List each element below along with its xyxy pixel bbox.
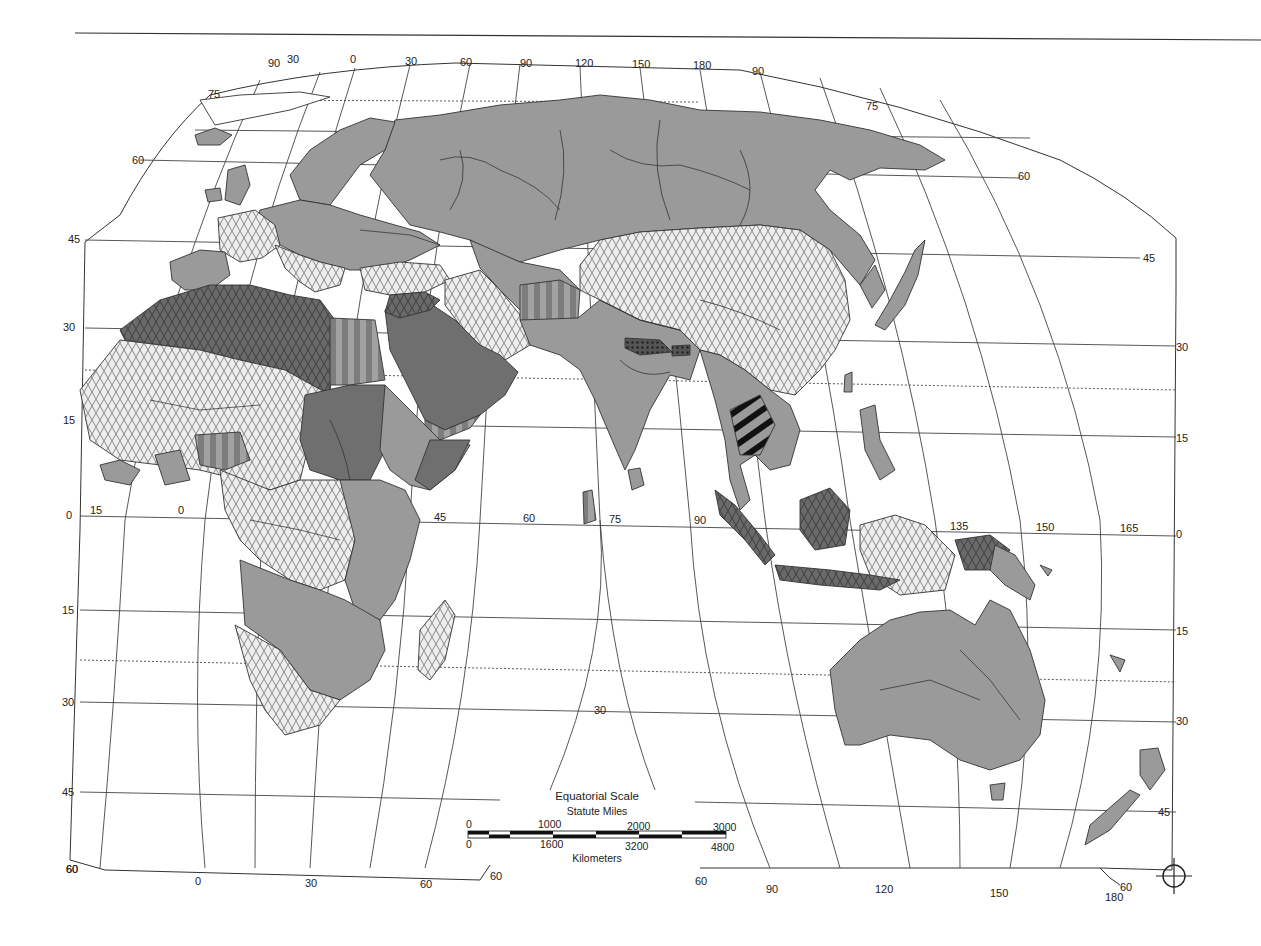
km-tick-3200: 3200 — [625, 840, 649, 852]
bottom-right-120: 120 — [875, 883, 893, 895]
lat-right-0: 0 — [1176, 528, 1182, 540]
top-label-4: 60 — [460, 56, 472, 68]
miles-tick-0: 0 — [466, 818, 472, 830]
top-label-0: 90 — [268, 57, 280, 69]
lat-left-45: 45 — [68, 233, 80, 245]
lat-right-30s: 30 — [1176, 715, 1188, 727]
bottom-left-0: 0 — [195, 875, 201, 887]
top-label-7: 150 — [632, 58, 650, 70]
lat-left-0: 0 — [66, 509, 72, 521]
eq-lon-75: 75 — [609, 513, 621, 525]
eq-lon-0: 0 — [178, 504, 184, 516]
lat-left-60: 60 — [132, 154, 144, 166]
eq-lon-90: 90 — [694, 514, 706, 526]
top-label-9: 90 — [752, 65, 764, 77]
lat-left-30s: 30 — [62, 696, 74, 708]
top-label-3: 30 — [405, 55, 417, 67]
miles-tick-2000: 2000 — [627, 820, 651, 832]
eq-lon-45: 45 — [434, 511, 446, 523]
top-rule — [75, 33, 1261, 40]
top-label-8: 180 — [693, 59, 711, 71]
bottom-right-90: 90 — [766, 883, 778, 895]
lat-right-15s: 15 — [1176, 625, 1188, 637]
lat-right-15: 15 — [1176, 432, 1188, 444]
km-tick-1600: 1600 — [540, 838, 564, 850]
lat-left-15s: 15 — [62, 604, 74, 616]
eq-lon-150: 150 — [1036, 521, 1054, 533]
scale-title: Equatorial Scale — [555, 790, 639, 802]
km-tick-0: 0 — [466, 838, 472, 850]
top-label-6: 120 — [575, 57, 593, 69]
km-tick-4800: 4800 — [711, 841, 735, 853]
bottom-left-30: 30 — [305, 877, 317, 889]
world-map: 90 30 0 30 60 90 120 150 180 90 75 60 45… — [0, 0, 1261, 946]
top-label-5: 90 — [520, 57, 532, 69]
bottom-right-150: 150 — [990, 887, 1008, 899]
top-label-1: 30 — [287, 53, 299, 65]
bottom-right-60: 60 — [695, 875, 707, 887]
top-label-2: 0 — [350, 53, 356, 65]
bottom-left-60b: 60 — [420, 878, 432, 890]
lat-left-45s: 45 — [62, 786, 74, 798]
bottom-right-60b: 60 — [1120, 881, 1132, 893]
scale-bar — [468, 831, 726, 838]
registration-crosshair-icon — [1156, 858, 1192, 894]
scale-km-label: Kilometers — [572, 852, 622, 864]
eq-lon-165: 165 — [1120, 522, 1138, 534]
lat-left-75: 75 — [208, 88, 220, 100]
lat-right-45s: 45 — [1158, 806, 1170, 818]
lat-right-45: 45 — [1143, 252, 1155, 264]
miles-tick-1000: 1000 — [538, 818, 562, 830]
equatorial-scale: Equatorial Scale Statute Miles 0 1000 20… — [466, 790, 737, 864]
lat-right-75: 75 — [866, 100, 878, 112]
inner-label-30: 30 — [594, 704, 606, 716]
landmasses — [80, 92, 1165, 845]
lat-left-15: 15 — [63, 414, 75, 426]
bottom-left-60: 60 — [66, 863, 78, 875]
bottom-left-60c: 60 — [490, 870, 502, 882]
eq-lon-135: 135 — [950, 520, 968, 532]
scale-miles-label: Statute Miles — [567, 805, 628, 817]
lat-right-30: 30 — [1176, 341, 1188, 353]
eq-lon-15: 15 — [90, 504, 102, 516]
lat-right-60: 60 — [1018, 170, 1030, 182]
lat-left-30: 30 — [63, 321, 75, 333]
eq-lon-60: 60 — [523, 512, 535, 524]
